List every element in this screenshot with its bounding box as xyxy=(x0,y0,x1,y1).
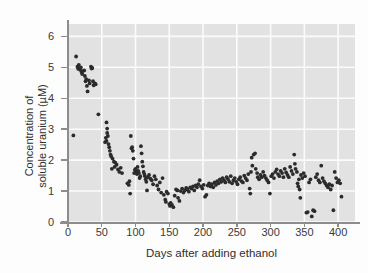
x-axis-line xyxy=(60,222,360,224)
y-axis-title-line2: soluble uranium (µM) xyxy=(36,56,49,216)
y-axis-title-line1: Concentration of xyxy=(23,56,36,216)
plot-area xyxy=(68,24,355,222)
y-tick-5 xyxy=(61,67,67,68)
y-tick-4 xyxy=(61,98,67,99)
y-tick-1 xyxy=(61,190,67,191)
y-tick-3 xyxy=(61,128,67,129)
data-points-layer xyxy=(68,24,355,222)
y-axis-title: Concentration of soluble uranium (µM) xyxy=(23,56,49,216)
x-tick-label-400: 400 xyxy=(318,226,358,238)
y-tick-2 xyxy=(61,159,67,160)
x-axis-title: Days after adding ethanol xyxy=(68,247,355,259)
figure-scatter-uranium: 0123456 050100150200250300350400 Concent… xyxy=(0,0,368,273)
y-tick-6 xyxy=(61,36,67,37)
y-tick-label-6: 6 xyxy=(28,30,54,42)
y-axis-line xyxy=(67,20,69,224)
y-tick-0 xyxy=(61,221,67,222)
